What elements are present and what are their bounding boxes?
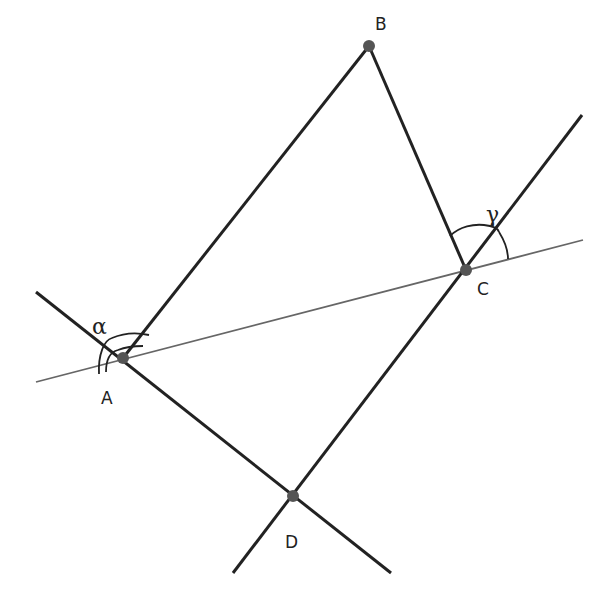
line-cd	[233, 115, 582, 573]
point-a	[117, 352, 129, 364]
label-d: D	[285, 532, 298, 552]
segment-bc	[369, 46, 466, 270]
label-gamma: γ	[486, 202, 499, 227]
line-ad	[36, 292, 391, 573]
label-c: C	[477, 279, 489, 299]
segment-ab	[123, 46, 369, 358]
label-b: B	[375, 14, 387, 34]
geometry-diagram: A B C D α γ	[0, 0, 612, 606]
point-d	[287, 490, 299, 502]
label-alpha: α	[92, 314, 107, 339]
points	[117, 40, 472, 502]
point-b	[363, 40, 375, 52]
label-a: A	[101, 388, 113, 408]
point-c	[460, 264, 472, 276]
